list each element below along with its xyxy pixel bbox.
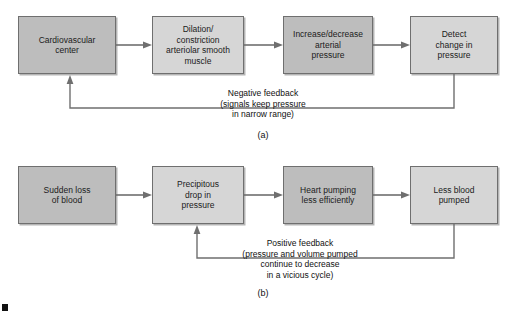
arrow-a-2 [244,40,284,50]
arrow-a-1 [116,40,153,50]
arrow-b-3 [373,190,411,200]
caption-positive-feedback: Positive feedback (pressure and volume p… [175,238,425,280]
panel-a: Cardiovascular center Dilation/ constric… [0,0,526,150]
box-heart-pumping-less-efficiently: Heart pumping less efficiently [283,166,373,224]
arrow-b-1 [116,190,153,200]
box-increase-decrease-arterial-pressure: Increase/decrease arterial pressure [283,16,373,74]
box-sudden-loss-of-blood: Sudden loss of blood [18,166,116,224]
box-less-blood-pumped: Less blood pumped [410,166,498,224]
box-cardiovascular-center: Cardiovascular center [18,16,116,74]
arrow-b-2 [244,190,284,200]
box-dilation-constriction: Dilation/ constriction arteriolar smooth… [152,16,244,74]
caption-negative-feedback: Negative feedback (signals keep pressure… [153,88,373,120]
panel-b: Sudden loss of blood Precipitous drop in… [0,152,526,312]
figure-canvas: Cardiovascular center Dilation/ constric… [0,0,526,313]
box-detect-change-in-pressure: Detect change in pressure [410,16,498,74]
arrow-a-3 [373,40,411,50]
panel-label-b: (b) [243,288,283,298]
box-precipitous-drop-in-pressure: Precipitous drop in pressure [152,166,244,224]
panel-label-a: (a) [243,130,283,140]
corner-marker [2,304,8,311]
